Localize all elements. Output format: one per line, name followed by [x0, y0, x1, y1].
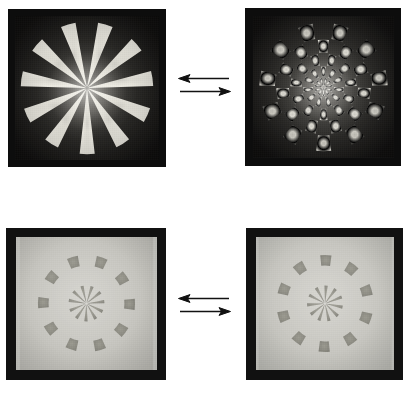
panel-field-top-left — [15, 16, 159, 160]
figure-root — [0, 0, 407, 393]
panel-field-top-right — [253, 16, 394, 158]
equilibrium-arrows-top — [177, 72, 232, 98]
pattern-radial-sectors — [15, 16, 159, 160]
pattern-radial-checkerboard-dark — [253, 16, 394, 158]
pattern-radial-checkerboard-light-a — [16, 237, 157, 370]
pattern-radial-checkerboard-light-b — [256, 237, 394, 370]
panel-top-right — [245, 8, 401, 166]
equilibrium-arrows-bottom — [177, 292, 232, 318]
panel-bottom-left — [6, 228, 166, 380]
panel-bottom-right — [246, 228, 403, 380]
panel-field-bottom-left — [16, 237, 157, 370]
panel-field-bottom-right — [256, 237, 394, 370]
panel-top-left — [8, 9, 166, 167]
